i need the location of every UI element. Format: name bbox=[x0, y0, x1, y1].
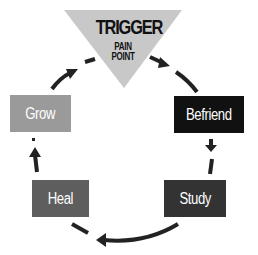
stage-study-label: Study bbox=[179, 190, 211, 208]
stage-grow: Grow bbox=[10, 95, 71, 132]
cycle-diagram: TRIGGER PAIN POINT Befriend Study Heal G… bbox=[0, 0, 258, 255]
stage-grow-label: Grow bbox=[26, 105, 56, 123]
stage-befriend-label: Befriend bbox=[186, 106, 232, 124]
arrow-study-to-heal bbox=[72, 224, 178, 247]
trigger-title: TRIGGER bbox=[96, 15, 151, 39]
stage-befriend: Befriend bbox=[174, 96, 244, 133]
stage-heal: Heal bbox=[32, 180, 89, 217]
trigger-subtitle: PAIN POINT bbox=[103, 42, 143, 62]
stage-heal-label: Heal bbox=[48, 190, 73, 208]
stage-study: Study bbox=[164, 180, 226, 217]
arrow-befriend-to-study bbox=[205, 139, 217, 174]
trigger-subtitle-line2: POINT bbox=[103, 52, 143, 62]
arrow-heal-to-grow bbox=[29, 138, 41, 172]
arrow-grow-to-trigger bbox=[52, 59, 95, 89]
arrow-trigger-to-befriend bbox=[150, 57, 197, 92]
